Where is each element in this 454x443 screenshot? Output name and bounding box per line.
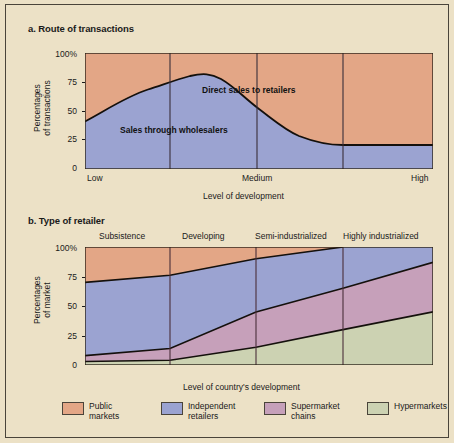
panel-b-plot xyxy=(85,247,433,365)
panel-a-ytick-100: 100% xyxy=(37,49,77,59)
panel-a-label-direct-sales: Direct sales to retailers xyxy=(202,85,296,95)
panel-b-category-subsistence: Subsistence xyxy=(99,231,145,241)
panel-a-x-axis-label: Level of development xyxy=(203,191,284,201)
panel-b-title: b. Type of retailer xyxy=(28,215,105,226)
legend-item-public-markets[interactable]: Public markets xyxy=(62,401,161,421)
legend-label-hypermarkets-line1: Hypermarkets xyxy=(394,401,447,411)
panel-b-ytick-0: 0 xyxy=(37,360,77,370)
legend-label-supermarket-chains-line1: Supermarket xyxy=(291,401,340,411)
panel-a-xtick-medium: Medium xyxy=(242,173,272,183)
panel-b-ytick-100: 100% xyxy=(37,243,77,253)
panel-a-xtick-high: High xyxy=(411,173,428,183)
figure-container: a. Route of transactions Percentages of … xyxy=(0,0,454,443)
figure-frame: a. Route of transactions Percentages of … xyxy=(5,4,449,438)
panel-b-category-developing: Developing xyxy=(182,231,225,241)
panel-a-ytick-25: 25 xyxy=(37,134,77,144)
legend: Public markets Independent retailers Sup… xyxy=(62,401,442,421)
legend-swatch-public-markets xyxy=(62,402,84,415)
panel-b-ytick-25: 25 xyxy=(37,331,77,341)
legend-label-public-markets-line2: markets xyxy=(89,411,119,421)
legend-item-supermarket-chains[interactable]: Supermarket chains xyxy=(264,401,367,421)
legend-label-supermarket-chains: Supermarket chains xyxy=(291,401,340,421)
panel-a-ytick-50: 50 xyxy=(37,106,77,116)
panel-a-xtick-low: Low xyxy=(87,173,103,183)
legend-swatch-independent-retailers xyxy=(161,402,183,415)
legend-item-independent-retailers[interactable]: Independent retailers xyxy=(161,401,264,421)
legend-label-independent-retailers-line1: Independent xyxy=(188,401,235,411)
legend-label-public-markets-line1: Public xyxy=(89,401,112,411)
legend-label-independent-retailers-line2: retailers xyxy=(188,411,218,421)
legend-item-hypermarkets[interactable]: Hypermarkets xyxy=(367,401,442,415)
legend-label-hypermarkets: Hypermarkets xyxy=(394,401,447,411)
legend-swatch-supermarket-chains xyxy=(264,402,286,415)
panel-b-y-axis-label-line1: Percentages xyxy=(32,276,42,324)
legend-label-public-markets: Public markets xyxy=(89,401,119,421)
panel-a-plot xyxy=(85,53,433,169)
panel-a-label-wholesalers: Sales through wholesalers xyxy=(120,125,228,135)
panel-b-y-axis-label-line2: of market xyxy=(42,282,52,317)
panel-a-ytick-75: 75 xyxy=(37,77,77,87)
panel-b-ytick-50: 50 xyxy=(37,301,77,311)
panel-b-category-highly-industrialized: Highly industrialized xyxy=(343,231,419,241)
legend-swatch-hypermarkets xyxy=(367,402,389,415)
legend-label-independent-retailers: Independent retailers xyxy=(188,401,235,421)
panel-b-ytick-75: 75 xyxy=(37,272,77,282)
panel-b-category-semi-industrialized: Semi-industrialized xyxy=(255,231,327,241)
panel-a-title: a. Route of transactions xyxy=(28,23,134,34)
panel-a-ytick-0: 0 xyxy=(37,163,77,173)
legend-label-supermarket-chains-line2: chains xyxy=(291,411,316,421)
panel-b-x-axis-label: Level of country's development xyxy=(183,382,300,392)
